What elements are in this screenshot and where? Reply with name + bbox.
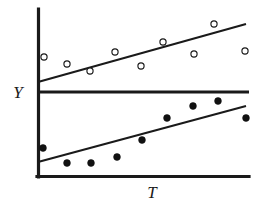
filled-circle-marker: [215, 98, 222, 105]
open-circle-marker: [191, 51, 197, 57]
open-circle-marker: [138, 63, 144, 69]
plot-canvas: Y T: [0, 0, 262, 208]
open-circle-marker: [160, 39, 166, 45]
filled-circle-marker: [88, 160, 95, 167]
x-axis-label: T: [147, 183, 158, 202]
filled-circle-marker: [40, 145, 47, 152]
open-circle-marker: [87, 68, 93, 74]
upper-trend-line: [38, 24, 246, 82]
open-circle-marker: [242, 48, 248, 54]
filled-circle-marker: [139, 137, 146, 144]
upper-markers: [41, 21, 248, 74]
open-circle-marker: [64, 61, 70, 67]
filled-circle-marker: [190, 103, 197, 110]
scatter-plot-figure: Y T: [0, 0, 262, 208]
filled-circle-marker: [64, 160, 71, 167]
filled-circle-marker: [114, 154, 121, 161]
axes-group: [37, 9, 249, 177]
open-circle-marker: [211, 21, 217, 27]
lower-group: [38, 98, 249, 167]
open-circle-marker: [112, 49, 118, 55]
filled-circle-marker: [243, 115, 250, 122]
upper-group: [38, 21, 248, 82]
y-axis-label: Y: [13, 83, 24, 102]
open-circle-marker: [41, 54, 47, 60]
lower-markers: [40, 98, 250, 167]
lower-trend-line: [38, 106, 246, 162]
filled-circle-marker: [164, 115, 171, 122]
